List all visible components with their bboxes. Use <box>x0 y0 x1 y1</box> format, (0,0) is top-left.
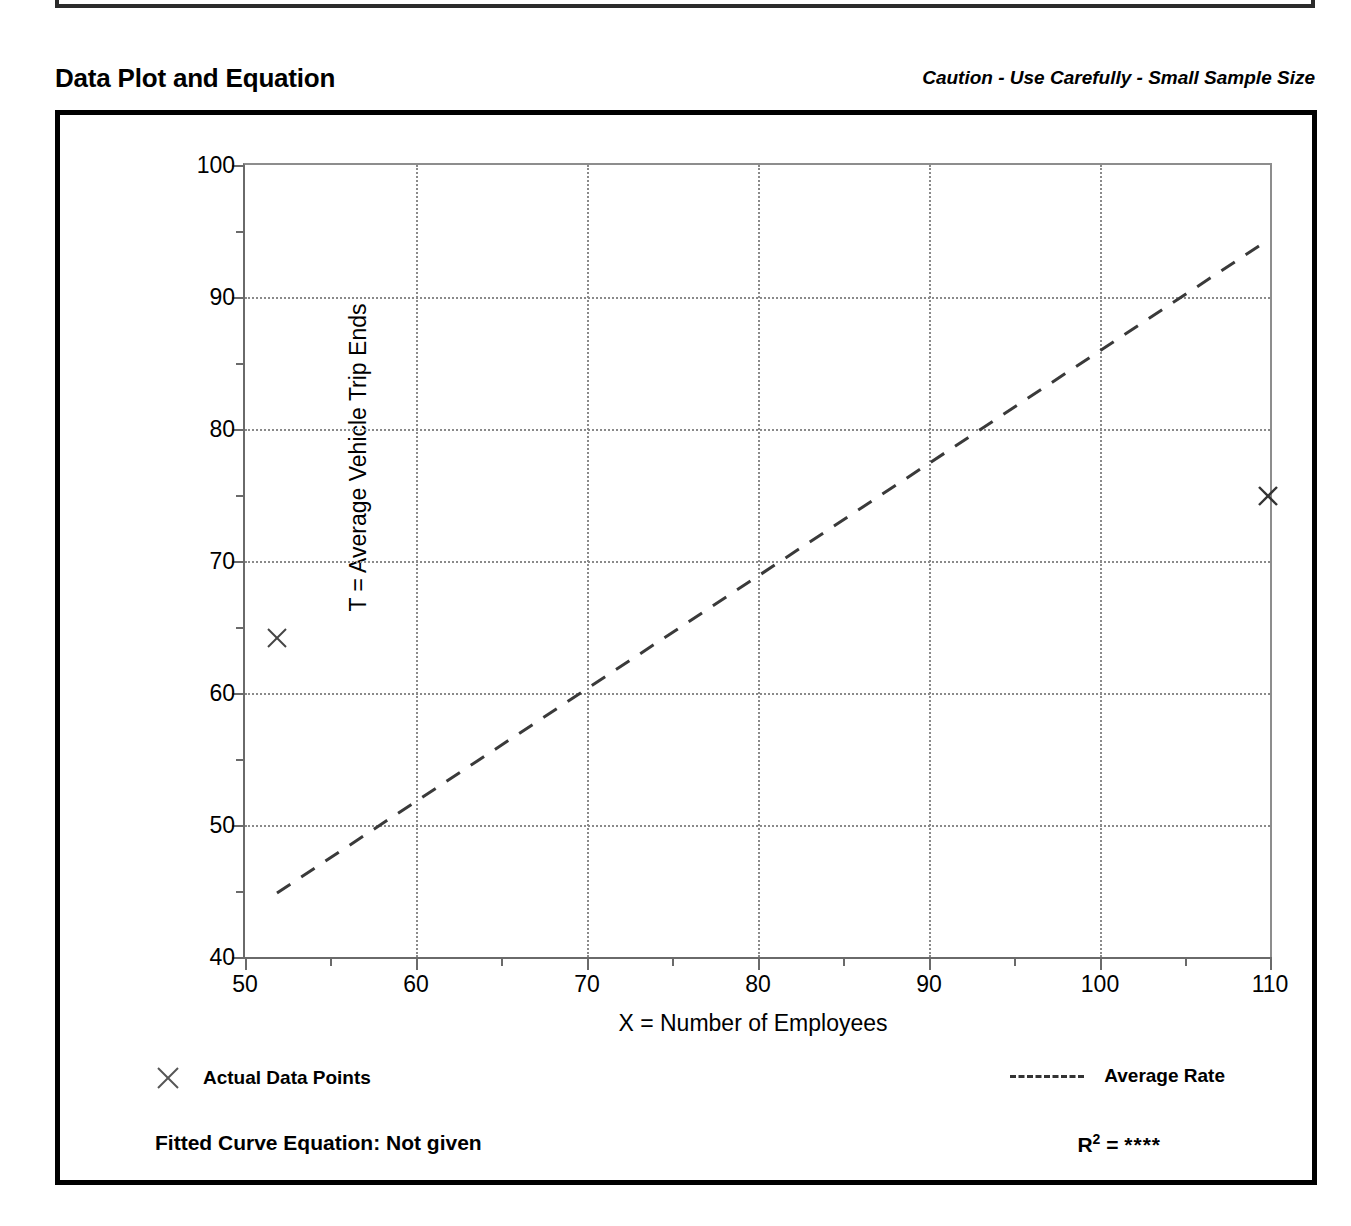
tick-x-110 <box>1270 957 1272 970</box>
x-tick-label-70: 70 <box>547 971 627 998</box>
chart-plot-region: T = Average Vehicle Trip Ends X = Number… <box>238 158 1266 960</box>
y-tick-label-40: 40 <box>165 944 235 971</box>
legend-entry-data-points: Actual Data Points <box>155 1065 371 1091</box>
tick-x-105-minor <box>1185 957 1187 966</box>
y-tick-label-90: 90 <box>165 284 235 311</box>
chart-footer: Fitted Curve Equation: Not given R2 = **… <box>155 1131 1225 1167</box>
tick-y-55-minor <box>236 759 245 761</box>
fitted-curve-equation: Fitted Curve Equation: Not given <box>155 1131 482 1155</box>
tick-x-75-minor <box>672 957 674 966</box>
tick-x-95-minor <box>1014 957 1016 966</box>
tick-y-95-minor <box>236 231 245 233</box>
tick-y-45-minor <box>236 891 245 893</box>
tick-x-80 <box>758 957 760 970</box>
x-cross-icon <box>265 626 289 650</box>
data-point-marker <box>265 626 289 650</box>
tick-y-85-minor <box>236 363 245 365</box>
r-squared-equals: = <box>1100 1133 1124 1156</box>
x-tick-label-80: 80 <box>718 971 798 998</box>
tick-x-70 <box>587 957 589 970</box>
page-top-rule <box>55 0 1315 8</box>
tick-x-60 <box>416 957 418 970</box>
legend-entry-average-rate: Average Rate <box>1010 1065 1225 1087</box>
page-header: Data Plot and Equation Caution - Use Car… <box>55 58 1317 98</box>
tick-x-90 <box>929 957 931 970</box>
tick-y-75-minor <box>236 495 245 497</box>
tick-x-65-minor <box>501 957 503 966</box>
tick-x-50 <box>245 957 247 970</box>
y-tick-label-60: 60 <box>165 680 235 707</box>
gridline-x-70 <box>587 165 589 957</box>
tick-x-100 <box>1100 957 1102 970</box>
y-tick-label-50: 50 <box>165 812 235 839</box>
r-squared-stars: **** <box>1124 1133 1161 1156</box>
page-title: Data Plot and Equation <box>55 63 335 94</box>
caution-note: Caution - Use Carefully - Small Sample S… <box>922 67 1317 89</box>
legend-label-average-rate: Average Rate <box>1104 1065 1225 1087</box>
gridline-x-100 <box>1100 165 1102 957</box>
legend-label-data-points: Actual Data Points <box>203 1067 371 1089</box>
chart-legend: Actual Data Points Average Rate <box>155 1065 1225 1099</box>
gridline-x-60 <box>416 165 418 957</box>
x-cross-icon <box>1256 484 1280 508</box>
x-tick-label-50: 50 <box>205 971 285 998</box>
y-tick-label-70: 70 <box>165 548 235 575</box>
data-point-marker <box>1256 484 1280 508</box>
gridline-x-80 <box>758 165 760 957</box>
x-axis-title: X = Number of Employees <box>238 1010 1268 1037</box>
tick-x-85-minor <box>843 957 845 966</box>
tick-y-65-minor <box>236 627 245 629</box>
y-tick-label-80: 80 <box>165 416 235 443</box>
x-cross-icon <box>155 1065 181 1091</box>
x-tick-label-60: 60 <box>376 971 456 998</box>
gridline-x-90 <box>929 165 931 957</box>
x-tick-label-110: 110 <box>1230 971 1310 998</box>
x-tick-label-90: 90 <box>889 971 969 998</box>
y-tick-label-100: 100 <box>165 152 235 179</box>
tick-x-55-minor <box>330 957 332 966</box>
r-squared-value: R2 = **** <box>1077 1131 1161 1157</box>
dashed-line-icon <box>1010 1075 1084 1078</box>
chart-panel: T = Average Vehicle Trip Ends X = Number… <box>55 110 1317 1185</box>
plot-box: 40 50 60 70 80 90 100 50 60 70 80 <box>243 163 1272 959</box>
r-squared-symbol: R <box>1077 1133 1092 1156</box>
x-tick-label-100: 100 <box>1060 971 1140 998</box>
